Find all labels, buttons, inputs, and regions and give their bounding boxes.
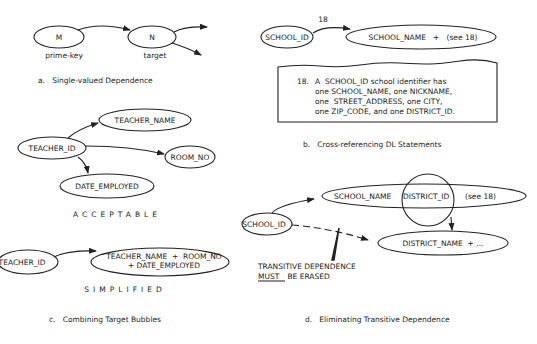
node-date-employed-label: DATE_EMPLOYED [75,182,139,191]
warning-line-1: TRANSITIVE DEPENDENCE [257,262,356,271]
panel-d-transitive-dependence: SCHOOL_NAME DISTRICT_ID (see 18) SCHOOL_… [242,174,526,324]
target-label: target [144,51,167,60]
arrow-n-out-2 [172,43,201,55]
caption-a: a. Single-valued Dependence [38,76,153,85]
caption-b: b. Cross-referencing DL Statements [303,140,442,149]
see-18-text: (see 18) [465,192,496,201]
note-number: 18. [297,77,309,86]
prime-key-label: prime-key [45,51,83,60]
dashed-transitive-arrow [292,225,368,240]
arrow-label-18: 18 [318,15,328,24]
combined-target-line-2: + DATE_EMPLOYED [128,261,200,270]
combined-target-line-1: TEACHER_NAME + ROOM_NO [105,252,222,261]
acceptable-label: ACCEPTABLE [73,210,161,219]
diagram-canvas: M N prime-key target a. Single-valued De… [0,0,537,344]
arrow-to-room-no [86,146,164,154]
arrow-school-id-to-school-name [313,28,350,33]
note-line-1: A SCHOOL_ID school identifier has [315,77,446,86]
arrow-n-out-1 [174,27,207,32]
panel-c-simplified: TEACHER_ID TEACHER_NAME + ROOM_NO + DATE… [0,248,229,324]
note-line-3: one STREET_ADDRESS, one CITY, [315,97,442,106]
node-school-id-d-label: SCHOOL_ID [242,220,286,229]
panel-b-cross-referencing: 18 SCHOOL_ID SCHOOL_NAME + (see 18) 18. … [261,15,497,149]
arrow-to-school-name [272,199,314,213]
arrow-to-date-employed [78,157,88,173]
warning-must: MUST [258,272,280,281]
pointer-line [332,228,339,260]
caption-d: d. Eliminating Transitive Dependence [305,315,450,324]
node-n-label: N [149,33,155,42]
panel-c-acceptable: TEACHER_NAME TEACHER_ID ROOM_NO DATE_EMP… [18,109,215,219]
simplified-label: SIMPLIFIED [84,285,165,294]
node-teacher-id-simplified-label: TEACHER_ID [0,258,46,267]
node-m-label: M [56,33,62,42]
arrow-to-combined-bubble [54,251,96,257]
arrow-to-teacher-name [68,123,98,138]
node-school-id-label: SCHOOL_ID [265,33,309,42]
node-teacher-id-label: TEACHER_ID [28,144,76,153]
arrow-m-to-n [78,26,130,30]
note-line-2: one SCHOOL_NAME, one NICKNAME, [315,87,452,96]
panel-a-single-valued-dependence: M N prime-key target a. Single-valued De… [34,26,207,85]
node-school-name-label: SCHOOL_NAME + (see 18) [369,33,478,42]
node-room-no-label: ROOM_NO [171,153,210,162]
district-id-text: DISTRICT_ID [403,192,450,201]
caption-c: c. Combining Target Bubbles [49,315,161,324]
arrow-district-id-to-district-name [451,217,452,230]
school-name-text: SCHOOL_NAME [334,192,392,201]
node-district-name-label: DISTRICT_NAME + ... [403,239,484,248]
node-teacher-name-label: TEACHER_NAME [114,116,176,125]
warning-line-2-rest: BE ERASED [285,272,330,281]
note-line-4: one ZIP_CODE, and one DISTRICT_ID. [315,107,455,116]
